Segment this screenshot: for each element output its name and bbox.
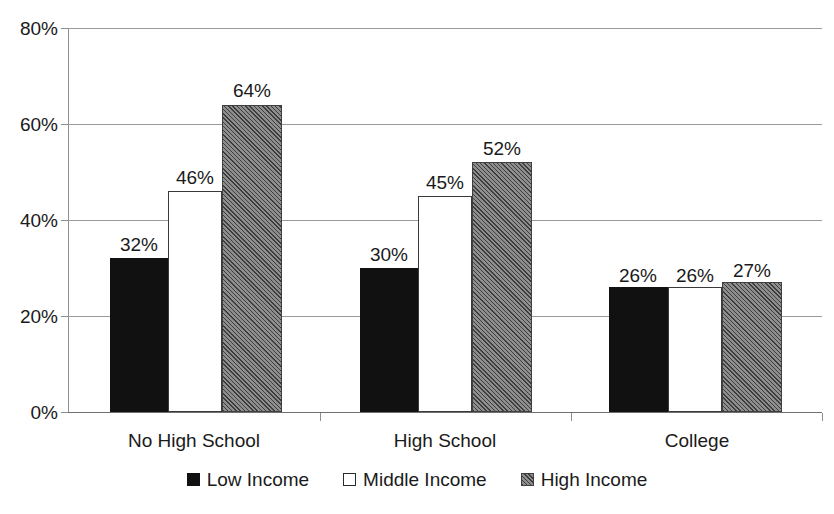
y-axis-tick-40 [61,220,68,221]
grouped-bar-chart: 80% 60% 40% 20% 0% 32% 46% 64% 30% [0,0,834,514]
chart-legend: Low Income Middle Income High Income [0,470,834,489]
gridline-0-baseline [68,412,822,413]
y-axis-tick-0 [61,412,68,413]
gridline-60 [68,124,822,125]
x-axis-tick-2 [571,413,572,421]
x-axis-label-high-school: High School [394,430,496,452]
value-label-no-high-school-low-income: 32% [120,235,158,254]
value-label-high-school-middle-income: 45% [426,173,464,192]
value-label-high-school-high-income: 52% [483,139,521,158]
y-axis-label-40: 40% [2,211,58,230]
bar-no-high-school-high-income [222,105,282,412]
x-axis-label-college: College [665,430,729,452]
value-label-no-high-school-high-income: 64% [233,81,271,100]
y-axis-tick-60 [61,124,68,125]
legend-label-middle-income: Middle Income [363,470,487,489]
bar-no-high-school-middle-income [168,191,222,412]
y-axis-label-0: 0% [2,403,58,422]
plot-area: 32% 46% 64% 30% 45% 52% 26% 26% 27% [68,28,822,412]
solid-black-square-icon [187,473,200,486]
open-white-square-icon [343,473,356,486]
bar-college-low-income [609,287,668,412]
x-axis-tick-1 [320,413,321,421]
x-axis-label-no-high-school: No High School [128,430,260,452]
bar-no-high-school-low-income [110,258,168,412]
y-axis-label-80: 80% [2,19,58,38]
legend-label-high-income: High Income [541,470,648,489]
x-axis-tick-3 [822,413,823,421]
legend-item-middle-income: Middle Income [343,470,487,489]
legend-item-low-income: Low Income [187,470,309,489]
bar-college-high-income [722,282,782,412]
gridline-80 [68,28,822,29]
bar-high-school-low-income [360,268,418,412]
value-label-college-low-income: 26% [619,266,657,285]
bar-college-middle-income [668,287,722,412]
hatched-gray-square-icon [521,473,534,486]
bar-high-school-middle-income [418,196,472,412]
y-axis-label-20: 20% [2,307,58,326]
value-label-college-middle-income: 26% [676,266,714,285]
y-axis-tick-20 [61,316,68,317]
value-label-no-high-school-middle-income: 46% [176,168,214,187]
legend-item-high-income: High Income [521,470,648,489]
y-axis-label-60: 60% [2,115,58,134]
value-label-college-high-income: 27% [733,261,771,280]
legend-label-low-income: Low Income [207,470,309,489]
y-axis-tick-80 [61,28,68,29]
bar-high-school-high-income [472,162,532,412]
value-label-high-school-low-income: 30% [370,245,408,264]
y-axis-tick-labels: 80% 60% 40% 20% 0% [0,0,58,514]
